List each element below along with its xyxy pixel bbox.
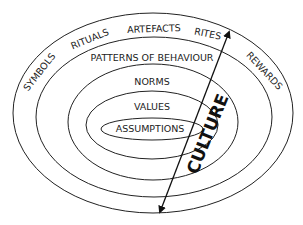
label-norms: NORMS — [134, 76, 169, 87]
culture-onion-diagram: SYMBOLS RITUALS ARTEFACTS RITES REWARDS … — [0, 0, 303, 225]
label-rites: RITES — [193, 25, 222, 41]
outer-ellipse — [13, 13, 293, 213]
label-assumptions: ASSUMPTIONS — [116, 123, 185, 134]
label-values: VALUES — [134, 101, 170, 112]
label-symbols: SYMBOLS — [21, 51, 57, 93]
label-patterns-of-behaviour: PATTERNS OF BEHAVIOUR — [91, 52, 214, 63]
label-artefacts: ARTEFACTS — [127, 22, 181, 35]
